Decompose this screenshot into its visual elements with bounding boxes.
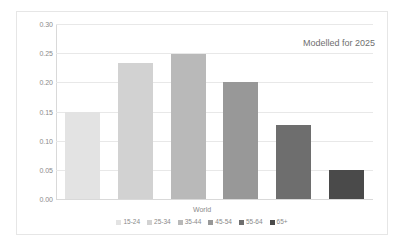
- legend-swatch-icon: [116, 220, 121, 225]
- y-axis-tick-label: 0.05: [19, 166, 53, 173]
- y-axis-tick-label: 0.25: [19, 50, 53, 57]
- legend-item-label: 55-64: [246, 219, 263, 226]
- legend-swatch-icon: [208, 220, 213, 225]
- y-axis-tick-labels: 0.000.050.100.150.200.250.30: [17, 24, 53, 200]
- y-axis-tick-label: 0.10: [19, 137, 53, 144]
- legend-swatch-icon: [270, 220, 275, 225]
- bar[interactable]: [171, 54, 206, 199]
- legend-item-label: 15-24: [123, 219, 140, 226]
- bar[interactable]: [329, 170, 364, 199]
- bar[interactable]: [276, 125, 311, 199]
- x-axis-label: World: [17, 206, 387, 213]
- bar[interactable]: [223, 82, 258, 199]
- legend-item-label: 25-34: [154, 219, 171, 226]
- legend-item-label: 45-54: [215, 219, 232, 226]
- legend-item[interactable]: 15-24: [116, 219, 140, 226]
- bar[interactable]: [65, 112, 100, 199]
- y-axis-tick-label: 0.00: [19, 196, 53, 203]
- chart-annotation: Modelled for 2025: [303, 38, 375, 48]
- legend-item-label: 65+: [277, 219, 288, 226]
- bar-series: [56, 24, 373, 199]
- gridline: [56, 199, 373, 200]
- chart-legend: 15-2425-3435-4445-5455-6465+: [17, 219, 387, 226]
- legend-item[interactable]: 45-54: [208, 219, 232, 226]
- legend-item[interactable]: 25-34: [147, 219, 171, 226]
- bar[interactable]: [118, 63, 153, 199]
- y-axis-tick-label: 0.30: [19, 21, 53, 28]
- legend-item-label: 35-44: [185, 219, 202, 226]
- legend-item[interactable]: 55-64: [239, 219, 263, 226]
- y-axis-tick-label: 0.20: [19, 79, 53, 86]
- plot-area: [56, 24, 373, 199]
- legend-swatch-icon: [239, 220, 244, 225]
- legend-item[interactable]: 35-44: [178, 219, 202, 226]
- y-axis-tick-label: 0.15: [19, 108, 53, 115]
- legend-swatch-icon: [178, 220, 183, 225]
- chart-figure: 0.000.050.100.150.200.250.30 Modelled fo…: [16, 11, 388, 235]
- legend-item[interactable]: 65+: [270, 219, 288, 226]
- legend-swatch-icon: [147, 220, 152, 225]
